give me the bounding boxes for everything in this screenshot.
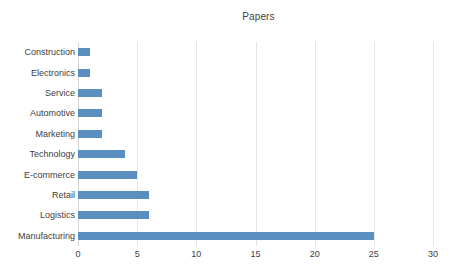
- category-label-row: E-commerce: [0, 164, 75, 184]
- value-axis-labels: 051015202530: [0, 249, 459, 263]
- bar-row: [78, 144, 433, 164]
- category-axis-labels: ConstructionElectronicsServiceAutomotive…: [0, 42, 75, 246]
- x-tick-label-0: 0: [58, 249, 98, 260]
- bar[interactable]: [78, 109, 102, 117]
- x-tick-label-5: 5: [117, 249, 157, 260]
- bar[interactable]: [78, 48, 90, 56]
- category-label: Technology: [29, 149, 75, 159]
- category-label-row: Electronics: [0, 62, 75, 82]
- x-tick-label-25: 25: [354, 249, 394, 260]
- bar-row: [78, 62, 433, 82]
- category-label: Retail: [52, 190, 75, 200]
- x-tick-label-15: 15: [236, 249, 276, 260]
- chart-title-text: Papers: [242, 11, 274, 23]
- bar-row: [78, 42, 433, 62]
- bar-row: [78, 185, 433, 205]
- bar[interactable]: [78, 191, 149, 199]
- bar[interactable]: [78, 150, 125, 158]
- category-label: Marketing: [35, 129, 75, 139]
- category-label: Construction: [24, 47, 75, 57]
- bar-chart: Papers ConstructionElectronicsServiceAut…: [0, 0, 459, 275]
- category-label: Automotive: [30, 108, 75, 118]
- category-label-row: Retail: [0, 185, 75, 205]
- x-tick-label-20: 20: [295, 249, 335, 260]
- category-label: Manufacturing: [18, 231, 75, 241]
- gridline-30: [433, 42, 434, 246]
- bar[interactable]: [78, 171, 137, 179]
- category-label: Logistics: [40, 210, 75, 220]
- category-label-row: Construction: [0, 42, 75, 62]
- category-label: E-commerce: [24, 170, 75, 180]
- x-tick-label-10: 10: [176, 249, 216, 260]
- bar-row: [78, 83, 433, 103]
- bar-row: [78, 124, 433, 144]
- category-label-row: Manufacturing: [0, 226, 75, 246]
- category-label: Service: [45, 88, 75, 98]
- bar[interactable]: [78, 69, 90, 77]
- category-label-row: Automotive: [0, 103, 75, 123]
- category-label-row: Logistics: [0, 205, 75, 225]
- category-label-row: Marketing: [0, 124, 75, 144]
- bar-row: [78, 164, 433, 184]
- bar[interactable]: [78, 130, 102, 138]
- category-label-row: Service: [0, 83, 75, 103]
- category-label: Electronics: [31, 68, 75, 78]
- bar[interactable]: [78, 211, 149, 219]
- chart-title: Papers: [0, 11, 459, 23]
- bar-row: [78, 103, 433, 123]
- bar-row: [78, 205, 433, 225]
- bar[interactable]: [78, 89, 102, 97]
- x-tick-label-30: 30: [413, 249, 453, 260]
- bar[interactable]: [78, 232, 374, 240]
- category-label-row: Technology: [0, 144, 75, 164]
- bars-layer: [78, 42, 433, 246]
- bar-row: [78, 226, 433, 246]
